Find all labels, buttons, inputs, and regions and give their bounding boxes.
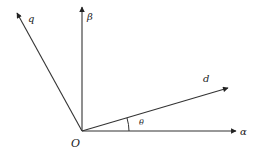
- theta-arc: [127, 118, 129, 131]
- beta-label: β: [86, 11, 93, 22]
- q-label: q: [28, 13, 34, 24]
- dq-alpha-beta-diagram: O α β d q θ: [0, 0, 254, 154]
- alpha-label: α: [240, 126, 247, 137]
- d-axis-arrow: [82, 88, 228, 131]
- origin-label: O: [71, 137, 80, 150]
- theta-label: θ: [139, 118, 144, 127]
- q-axis-arrow: [17, 13, 82, 131]
- d-label: d: [203, 73, 209, 84]
